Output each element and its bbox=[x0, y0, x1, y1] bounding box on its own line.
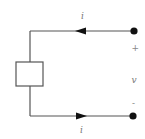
terminal-bottom-icon bbox=[129, 112, 136, 119]
current-label-top: i bbox=[81, 11, 84, 21]
voltage-label: v bbox=[132, 75, 137, 85]
terminal-top-icon bbox=[130, 27, 137, 34]
current-arrow-right-icon bbox=[76, 113, 87, 120]
minus-sign: - bbox=[132, 98, 135, 108]
current-label-bottom: i bbox=[80, 125, 83, 135]
circuit-element-box bbox=[16, 62, 43, 86]
plus-sign: + bbox=[132, 43, 140, 53]
current-arrow-left-icon bbox=[75, 28, 86, 35]
circuit-diagram: i i + v - bbox=[0, 0, 145, 139]
